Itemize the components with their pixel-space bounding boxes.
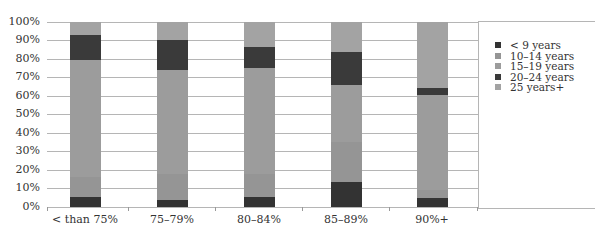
y-tick-label: 0% <box>0 201 40 213</box>
bar-segment <box>244 174 275 197</box>
bar-segment <box>244 197 275 207</box>
legend-swatch-icon <box>495 84 501 90</box>
legend-swatch-icon <box>495 42 501 48</box>
bar-stack <box>331 22 362 208</box>
bar-segment <box>70 60 101 177</box>
bar-segment <box>417 88 448 94</box>
y-tick-label: 30% <box>0 145 40 157</box>
legend-swatch-icon <box>495 63 501 69</box>
bar-segment <box>331 182 362 207</box>
x-axis-tick <box>389 207 390 211</box>
y-tick-label: 90% <box>0 34 40 46</box>
bar-segment <box>157 22 188 41</box>
bar-segment <box>70 35 101 61</box>
bar-segment <box>417 22 448 89</box>
legend-item: 25 years+ <box>495 82 564 93</box>
bar-segment <box>331 52 362 84</box>
bar-segment <box>331 22 362 53</box>
legend-swatch-icon <box>495 53 501 59</box>
gridline <box>47 207 478 208</box>
bar-segment <box>70 177 101 196</box>
bar-stack <box>157 22 188 208</box>
bar-segment <box>157 174 188 200</box>
bar-segment <box>157 40 188 70</box>
legend: < 9 years10–14 years15–19 years20–24 yea… <box>478 21 595 209</box>
bar-segment <box>70 197 101 207</box>
y-tick-label: 40% <box>0 127 40 139</box>
x-tick-label: < than 75% <box>35 213 135 226</box>
bar-segment <box>244 47 275 67</box>
x-tick-label: 85–89% <box>296 213 396 226</box>
x-tick-label: 90%+ <box>382 213 482 226</box>
bar-segment <box>157 200 188 207</box>
y-tick-label: 80% <box>0 53 40 65</box>
legend-label: 25 years+ <box>510 81 564 93</box>
y-tick-label: 60% <box>0 90 40 102</box>
stacked-bar-chart: 0%10%20%30%40%50%60%70%80%90%100% < than… <box>0 0 610 241</box>
bar-segment <box>244 68 275 174</box>
bar-segment <box>417 95 448 191</box>
x-axis-tick <box>128 207 129 211</box>
bar-stack <box>417 22 448 208</box>
y-tick-label: 70% <box>0 71 40 83</box>
y-tick-label: 10% <box>0 182 40 194</box>
bar-stack <box>70 22 101 208</box>
legend-swatch-icon <box>495 74 501 80</box>
x-tick-label: 75–79% <box>122 213 222 226</box>
bar-segment <box>417 198 448 207</box>
y-tick-label: 100% <box>0 16 40 28</box>
y-tick-label: 50% <box>0 108 40 120</box>
bar-stack <box>244 22 275 208</box>
bar-segment <box>331 142 362 182</box>
bar-segment <box>157 70 188 174</box>
bar-segment <box>70 22 101 35</box>
bar-segment <box>417 190 448 197</box>
x-axis-tick <box>215 207 216 211</box>
bar-segment <box>244 22 275 48</box>
x-axis-tick <box>302 207 303 211</box>
x-tick-label: 80–84% <box>209 213 309 226</box>
bar-segment <box>331 85 362 143</box>
y-tick-label: 20% <box>0 164 40 176</box>
x-axis-tick <box>47 207 48 211</box>
